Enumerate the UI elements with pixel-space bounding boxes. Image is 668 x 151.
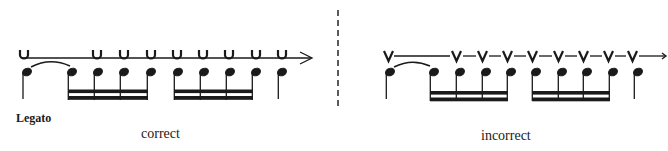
incorrect-panel <box>384 51 666 101</box>
caption-correct: correct <box>141 126 180 142</box>
notes <box>384 67 643 102</box>
legato-figure: Legato correct incorrect <box>0 0 668 151</box>
phrase-arrow-icon <box>22 52 312 64</box>
slur-icon <box>31 62 70 67</box>
notes <box>21 67 287 100</box>
up-bow-marks <box>20 50 286 59</box>
slur-icon <box>394 62 430 67</box>
caption-incorrect: incorrect <box>481 128 531 144</box>
section-label: Legato <box>16 111 51 126</box>
correct-panel <box>20 50 312 100</box>
